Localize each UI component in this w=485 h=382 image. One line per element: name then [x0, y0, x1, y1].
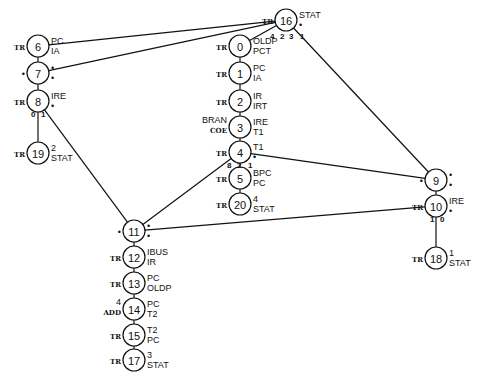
node-left-label: TR — [412, 255, 423, 264]
node-left-label: TR — [216, 98, 227, 107]
node-right-label-top: IRE — [51, 91, 66, 101]
port-label: 1 — [300, 32, 305, 41]
state-diagram: 6TRPCIA7•••8TRIRE•19TR2STAT16TRSTAT•0TRO… — [0, 0, 485, 382]
node-right-label-top: IBUS — [147, 247, 168, 257]
node-right-label-top: PC — [253, 63, 266, 73]
node-right-label-bottom: IA — [51, 46, 60, 56]
node-number: 7 — [35, 68, 41, 80]
node-number: 20 — [234, 199, 246, 211]
state-node-10: 10TRIRE• — [412, 195, 464, 217]
node-right-label-bottom: • — [253, 152, 256, 162]
node-number: 11 — [128, 226, 139, 238]
state-node-13: 13TRPCOLDP — [110, 272, 172, 294]
node-left-label: TR — [14, 150, 25, 159]
port-label: 1 — [430, 215, 435, 224]
node-left-label: BRAN — [202, 115, 227, 125]
node-left-label: TR — [14, 98, 25, 107]
node-right-label-bottom: PC — [147, 335, 160, 345]
node-right-label-top: 2 — [51, 143, 56, 153]
state-node-7: 7••• — [22, 62, 54, 84]
node-number: 13 — [128, 278, 140, 290]
state-node-1: 1TRPCIA — [216, 62, 266, 84]
node-number: 5 — [237, 173, 243, 185]
node-right-label-top: STAT — [299, 10, 321, 20]
node-number: 14 — [128, 304, 140, 316]
node-left-label: TR — [110, 357, 121, 366]
node-number: 16 — [280, 15, 292, 27]
node-right-label-bottom: STAT — [147, 360, 169, 370]
edge-8-11 — [45, 110, 128, 222]
node-right-label-top: 4 — [253, 194, 258, 204]
node-number: 2 — [237, 96, 243, 108]
state-node-2: 2TRIRIRT — [216, 90, 268, 112]
state-node-18: 18TR1STAT — [412, 247, 471, 269]
state-node-6: 6TRPCIA — [14, 35, 64, 57]
state-node-15: 15TRT2PC — [110, 324, 160, 346]
node-right-label-top: T2 — [147, 325, 158, 335]
node-left-label: TR — [216, 70, 227, 79]
node-number: 18 — [430, 253, 442, 265]
node-right-label-top: PC — [147, 273, 160, 283]
edge-11-4 — [143, 159, 231, 225]
node-right-label-top: IRE — [253, 117, 268, 127]
node-right-label-bottom: • — [147, 231, 150, 241]
node-right-label-bottom: STAT — [253, 204, 275, 214]
node-number: 4 — [237, 147, 243, 159]
state-node-16: 16TRSTAT• — [262, 9, 321, 31]
node-number: 17 — [128, 355, 140, 367]
node-number: 8 — [35, 96, 41, 108]
node-left-label: TR — [110, 280, 121, 289]
port-label: 1 — [41, 110, 46, 119]
node-left-label: TR — [262, 17, 273, 26]
node-right-label-bottom: • — [51, 101, 54, 111]
node-right-label-top: IRE — [449, 196, 464, 206]
state-node-12: 12TRIBUSIR — [110, 246, 168, 268]
node-number: 6 — [35, 41, 41, 53]
edge-16-9 — [294, 28, 429, 172]
node-right-label-top: IR — [253, 91, 263, 101]
node-number: 0 — [237, 41, 243, 53]
node-left-label: TR — [216, 43, 227, 52]
node-right-label-bottom: PCT — [253, 46, 272, 56]
node-right-label-bottom: • — [449, 180, 452, 190]
node-number: 9 — [433, 175, 439, 187]
node-left-label: TR — [110, 254, 121, 263]
state-node-14: 144ADDPCT2 — [102, 297, 160, 320]
node-right-label-top: 3 — [147, 350, 152, 360]
node-right-label-bottom: • — [449, 206, 452, 216]
node-right-label-bottom: IR — [147, 257, 157, 267]
node-left-label: 4 — [116, 297, 121, 307]
state-node-5: 5TRBPCPC — [216, 167, 272, 189]
node-left-label: • — [22, 69, 25, 79]
node-number: 1 — [237, 68, 243, 80]
node-left-label: • — [118, 227, 121, 237]
node-right-label-bottom: T1 — [253, 127, 264, 137]
port-label: 4 — [270, 32, 275, 41]
state-node-3: 3BRANCOEIRET1 — [202, 115, 268, 138]
state-node-8: 8TRIRE• — [14, 90, 66, 112]
node-right-label-bottom: OLDP — [147, 283, 172, 293]
edge-11-10 — [145, 207, 425, 230]
node-left-label: COE — [210, 126, 227, 135]
state-node-20: 20TR4STAT — [216, 193, 275, 215]
node-left-label: TR — [216, 175, 227, 184]
state-node-17: 17TR3STAT — [110, 349, 169, 371]
node-number: 10 — [430, 201, 442, 213]
node-left-label: TR — [216, 149, 227, 158]
port-label: 0 — [440, 215, 445, 224]
state-node-4: 4TRT1• — [216, 141, 264, 163]
node-right-label-bottom: STAT — [449, 258, 471, 268]
state-node-19: 19TR2STAT — [14, 142, 73, 164]
node-left-label: ADD — [102, 308, 121, 317]
node-right-label-bottom: PC — [253, 178, 266, 188]
node-right-label-bottom: • — [51, 73, 54, 83]
node-right-label-top: • — [51, 63, 54, 73]
node-right-label-bottom: IRT — [253, 101, 268, 111]
port-label: 2 — [280, 32, 285, 41]
state-node-9: 9••• — [420, 169, 452, 191]
port-label: 2 — [237, 161, 242, 170]
node-right-label-bottom: IA — [253, 73, 262, 83]
node-number: 15 — [128, 330, 140, 342]
node-left-label: TR — [412, 203, 423, 212]
node-right-label-top: PC — [51, 36, 64, 46]
